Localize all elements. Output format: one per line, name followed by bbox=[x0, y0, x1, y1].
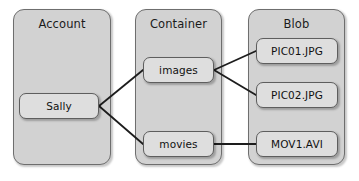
group-blob-title: Blob bbox=[249, 17, 344, 31]
node-movies-label: movies bbox=[159, 138, 197, 150]
node-pic02[interactable]: PIC02.JPG bbox=[256, 82, 338, 108]
group-container-title: Container bbox=[136, 17, 221, 31]
node-pic02-label: PIC02.JPG bbox=[271, 89, 323, 101]
node-pic01-label: PIC01.JPG bbox=[271, 45, 323, 57]
group-account-title: Account bbox=[14, 17, 110, 31]
node-images[interactable]: images bbox=[143, 57, 214, 83]
group-account: Account bbox=[13, 9, 111, 165]
node-pic01[interactable]: PIC01.JPG bbox=[256, 38, 338, 64]
node-mov1[interactable]: MOV1.AVI bbox=[256, 131, 338, 157]
node-sally[interactable]: Sally bbox=[19, 93, 99, 119]
node-images-label: images bbox=[159, 64, 198, 76]
node-sally-label: Sally bbox=[46, 100, 72, 112]
node-mov1-label: MOV1.AVI bbox=[271, 138, 323, 150]
storage-hierarchy-diagram: Account Container Blob Sally images movi… bbox=[0, 0, 359, 181]
node-movies[interactable]: movies bbox=[143, 131, 214, 157]
